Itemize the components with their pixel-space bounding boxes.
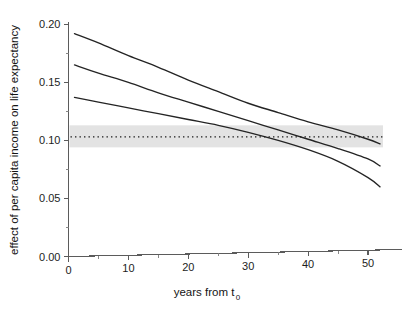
reference-band xyxy=(70,125,384,147)
chart-figure: 0.000.050.100.150.20 01020304050 years f… xyxy=(0,0,409,310)
x-tick-label: 0 xyxy=(65,264,71,276)
line-chart: 0.000.050.100.150.20 01020304050 years f… xyxy=(0,0,409,310)
y-tick-label: 0.15 xyxy=(39,76,60,88)
x-axis-title-text: years from t xyxy=(174,286,236,298)
x-tick-label: 40 xyxy=(302,258,314,270)
y-tick-label: 0.00 xyxy=(39,251,60,263)
x-tick-label: 10 xyxy=(122,262,134,274)
x-tick-label: 30 xyxy=(242,260,254,272)
y-tick-label: 0.20 xyxy=(39,18,60,30)
y-tick-label: 0.10 xyxy=(39,134,60,146)
chart-background xyxy=(0,0,409,310)
x-tick-label: 20 xyxy=(182,261,194,273)
x-tick-label: 50 xyxy=(362,257,374,269)
x-axis-title-subscript: 0 xyxy=(236,293,241,302)
y-tick-label: 0.05 xyxy=(39,192,60,204)
y-axis-title-text: effect of per capita income on life expe… xyxy=(8,25,20,255)
